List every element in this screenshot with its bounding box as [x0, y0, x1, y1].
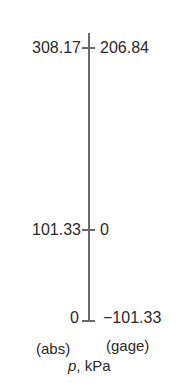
abs-label-bottom: 0 — [70, 310, 79, 326]
unit-text: , kPa — [76, 357, 110, 374]
tick-mark-middle — [82, 229, 95, 231]
tick-mark-top — [82, 47, 95, 49]
tick-mark-bottom — [82, 320, 95, 322]
vertical-axis-line — [88, 33, 90, 321]
abs-label-top: 308.17 — [32, 40, 81, 56]
gage-label-top: 206.84 — [100, 40, 149, 56]
abs-label-middle: 101.33 — [32, 222, 81, 238]
abs-caption: (abs) — [36, 341, 70, 356]
gage-label-middle: 0 — [100, 222, 109, 238]
gage-label-bottom: −101.33 — [103, 310, 161, 326]
gage-caption: (gage) — [106, 338, 149, 353]
axis-unit-label: p, kPa — [68, 358, 111, 373]
